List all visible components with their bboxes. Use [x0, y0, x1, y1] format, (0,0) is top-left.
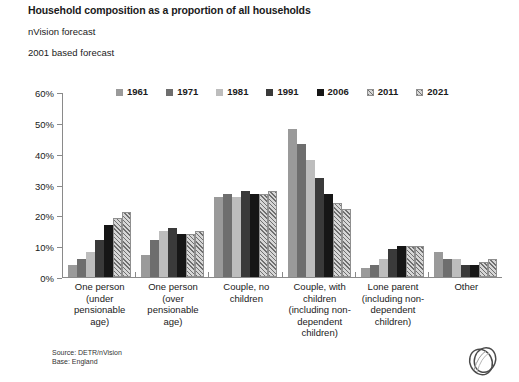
- bar-1971-3[interactable]: [297, 144, 306, 277]
- chart-header: Household composition as a proportion of…: [28, 4, 498, 68]
- bar-1961-0[interactable]: [68, 265, 77, 277]
- bar-2011-2[interactable]: [259, 194, 268, 277]
- base-line: Base: England: [52, 357, 122, 366]
- bar-1961-3[interactable]: [288, 129, 297, 277]
- bar-2021-3[interactable]: [342, 209, 351, 277]
- bar-1981-4[interactable]: [379, 259, 388, 278]
- bar-1991-3[interactable]: [315, 178, 324, 277]
- bar-1961-5[interactable]: [434, 252, 443, 277]
- bar-group-0: [63, 93, 136, 277]
- bar-2006-5[interactable]: [470, 265, 479, 277]
- source-line: Source: DETR/nVision: [52, 348, 122, 357]
- page-title: Household composition as a proportion of…: [28, 4, 498, 17]
- plot-area: 60%50%40%30%20%10%0%: [62, 93, 502, 278]
- bar-1981-3[interactable]: [306, 160, 315, 277]
- category-label-4: Lone parent (including non-dependent chi…: [356, 281, 429, 339]
- y-axis-tick-60: [57, 93, 62, 94]
- bar-2011-4[interactable]: [406, 246, 415, 277]
- bar-2021-5[interactable]: [488, 259, 497, 278]
- y-axis-label-0: 0%: [40, 274, 54, 283]
- bar-1971-1[interactable]: [150, 240, 159, 277]
- bar-1981-0[interactable]: [86, 252, 95, 277]
- y-axis-tick-10: [57, 247, 62, 248]
- x-axis-line: [62, 277, 502, 278]
- bar-groups: [63, 93, 502, 277]
- y-axis-label-40: 40%: [35, 151, 54, 160]
- bar-group-5: [429, 93, 502, 277]
- nvision-rings-logo: [459, 340, 505, 380]
- bar-2011-1[interactable]: [186, 234, 195, 277]
- y-axis-tick-30: [57, 186, 62, 187]
- category-label-0: One person (under pensionable age): [63, 281, 136, 339]
- bar-1981-5[interactable]: [452, 259, 461, 278]
- bar-2011-5[interactable]: [479, 262, 488, 277]
- bar-2021-1[interactable]: [195, 231, 204, 277]
- bar-2021-2[interactable]: [268, 191, 277, 277]
- y-axis-label-60: 60%: [35, 89, 54, 98]
- subtitle-based-forecast: 2001 based forecast: [28, 47, 498, 59]
- bar-1971-2[interactable]: [223, 194, 232, 277]
- chart-footer: Source: DETR/nVision Base: England: [52, 348, 122, 366]
- bar-2021-0[interactable]: [122, 212, 131, 277]
- y-axis-label-20: 20%: [35, 212, 54, 221]
- bar-2011-3[interactable]: [333, 203, 342, 277]
- bar-1961-1[interactable]: [141, 255, 150, 277]
- bar-group-4: [356, 93, 429, 277]
- bar-1961-2[interactable]: [214, 197, 223, 277]
- bar-group-2: [209, 93, 282, 277]
- subtitle-nvision-forecast: nVision forecast: [28, 26, 498, 38]
- bar-1991-0[interactable]: [95, 240, 104, 277]
- category-label-5: Other: [430, 281, 503, 339]
- x-axis-category-labels: One person (under pensionable age)One pe…: [63, 281, 503, 339]
- category-label-2: Couple, no children: [210, 281, 283, 339]
- bar-1971-4[interactable]: [370, 265, 379, 277]
- bar-2011-0[interactable]: [113, 218, 122, 277]
- bar-1971-5[interactable]: [443, 259, 452, 278]
- bar-2006-3[interactable]: [324, 194, 333, 277]
- y-axis-tick-0: [57, 278, 62, 279]
- bar-1981-1[interactable]: [159, 231, 168, 277]
- bar-1991-4[interactable]: [388, 249, 397, 277]
- bar-2021-4[interactable]: [415, 246, 424, 277]
- y-axis-tick-50: [57, 124, 62, 125]
- bar-1971-0[interactable]: [77, 259, 86, 278]
- y-axis-label-10: 10%: [35, 243, 54, 252]
- bar-2006-4[interactable]: [397, 246, 406, 277]
- bar-2006-2[interactable]: [250, 194, 259, 277]
- category-label-1: One person (over pensionable age): [136, 281, 209, 339]
- bar-group-1: [136, 93, 209, 277]
- y-axis-label-30: 30%: [35, 182, 54, 191]
- bar-2006-0[interactable]: [104, 225, 113, 277]
- y-axis-tick-40: [57, 155, 62, 156]
- category-label-3: Couple, with children (including non-dep…: [283, 281, 356, 339]
- y-axis-label-50: 50%: [35, 120, 54, 129]
- bar-1991-5[interactable]: [461, 265, 470, 277]
- y-axis-tick-20: [57, 216, 62, 217]
- bar-1991-1[interactable]: [168, 228, 177, 277]
- bar-1991-2[interactable]: [241, 191, 250, 277]
- bar-group-3: [283, 93, 356, 277]
- bar-1961-4[interactable]: [361, 268, 370, 277]
- bar-2006-1[interactable]: [177, 234, 186, 277]
- bar-1981-2[interactable]: [232, 197, 241, 277]
